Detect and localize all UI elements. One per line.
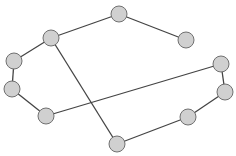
nodes	[4, 6, 233, 152]
node-G	[213, 56, 229, 72]
edge-J-C	[51, 38, 117, 144]
node-C	[43, 30, 59, 46]
node-B	[178, 32, 194, 48]
edge-A-B	[119, 14, 186, 40]
node-D	[6, 53, 22, 69]
graph-diagram	[0, 0, 236, 156]
node-J	[109, 136, 125, 152]
edge-A-C	[51, 14, 119, 38]
node-F	[38, 108, 54, 124]
node-I	[180, 109, 196, 125]
node-H	[217, 84, 233, 100]
edge-I-J	[117, 117, 188, 144]
node-E	[4, 81, 20, 97]
node-A	[111, 6, 127, 22]
